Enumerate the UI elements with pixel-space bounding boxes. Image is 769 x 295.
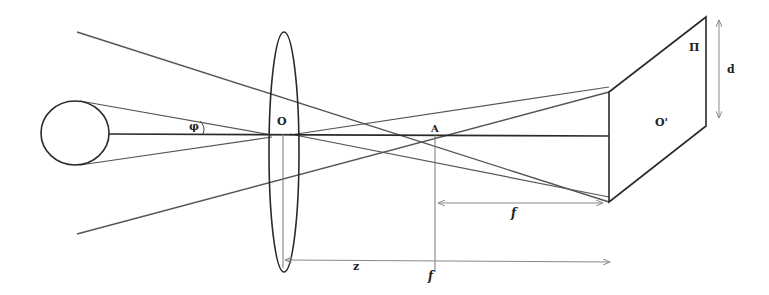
object-distance-label: z [353,261,359,272]
outer-ray-bottom [77,92,609,234]
inner-ray-top-continued [290,134,609,197]
inner-ray-bottom [80,137,272,165]
lens [269,32,299,272]
focal-length-label-upper: f [511,207,516,219]
focal-length-label-lower: f [428,270,433,282]
object-circle [41,101,109,165]
lens-projection-diagram [0,0,769,295]
image-center-label: O' [655,117,668,128]
inner-ray-bottom-continued [290,87,609,135]
image-plane-label: Π [689,42,699,53]
lens-center-label: O [277,116,287,127]
angle-label-phi: φ [189,121,199,132]
image-size-label: d [727,64,735,75]
object-distance-dimension [285,260,610,262]
outer-ray-top [77,32,609,202]
focal-point-label: A [431,124,439,134]
optical-axis [109,134,609,136]
